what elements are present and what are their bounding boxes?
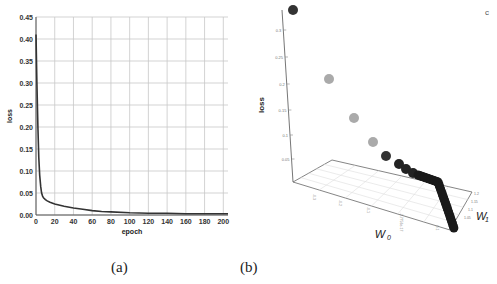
z-axis-label: loss bbox=[257, 96, 266, 113]
w0-axis-label: W bbox=[375, 228, 387, 240]
y-tick-label: 0.00 bbox=[19, 212, 33, 219]
scatter-point bbox=[349, 113, 359, 123]
w1-axis-sub: 1 bbox=[485, 216, 489, 223]
x-tick-label: 80 bbox=[107, 218, 115, 225]
y-tick-label: 0.10 bbox=[19, 168, 33, 175]
corner-mark: c bbox=[485, 8, 489, 17]
z-tick-label: 0.15 bbox=[279, 108, 288, 113]
scatter-point bbox=[288, 5, 298, 15]
loss-curve-chart: 0.000.050.100.150.200.250.300.350.400.45… bbox=[0, 0, 240, 240]
plane-grid-line bbox=[398, 181, 426, 214]
loss-line bbox=[36, 35, 228, 214]
x-tick-label: 0 bbox=[34, 218, 38, 225]
scatter-point bbox=[368, 137, 378, 147]
x-axis-label: epoch bbox=[122, 228, 143, 236]
x-tick-label: 40 bbox=[70, 218, 78, 225]
plane-grid-line bbox=[345, 171, 378, 198]
z-tick-label: 0.1 bbox=[282, 133, 288, 138]
x-tick-label: 60 bbox=[88, 218, 96, 225]
y-tick-label: 0.05 bbox=[19, 190, 33, 197]
x-tick-label: 120 bbox=[143, 218, 155, 225]
y-tick-label: 0.20 bbox=[19, 124, 33, 131]
scatter-point bbox=[381, 151, 391, 161]
w0-tick-label: -0.1 bbox=[366, 207, 370, 213]
y-tick-label: 0.15 bbox=[19, 146, 33, 153]
x-tick-label: 180 bbox=[199, 218, 211, 225]
y-tick-label: 0.45 bbox=[19, 14, 33, 21]
w0-axis-sub: 0 bbox=[387, 234, 391, 240]
w0-tick-label: 0.1 bbox=[435, 226, 439, 231]
w0-tick-label: -0.2 bbox=[338, 200, 342, 206]
y-axis-label: loss bbox=[6, 109, 13, 123]
x-tick-label: 160 bbox=[180, 218, 192, 225]
y-tick-label: 0.40 bbox=[19, 36, 33, 43]
x-tick-label: 140 bbox=[161, 218, 173, 225]
scatter-point-trail bbox=[449, 224, 458, 233]
loss-3d-svg: 0.30.250.20.150.10.05loss-0.3-0.2-0.1-2.… bbox=[250, 0, 497, 240]
w1-tick-label: 1.1 bbox=[468, 208, 473, 212]
y-tick-label: 0.30 bbox=[19, 80, 33, 87]
caption-b: (b) bbox=[240, 259, 258, 276]
w0-tick-label: -0.3 bbox=[312, 194, 316, 200]
loss-curve-svg: 0.000.050.100.150.200.250.300.350.400.45… bbox=[0, 0, 240, 240]
y-tick-label: 0.35 bbox=[19, 58, 33, 65]
z-tick-label: 0.25 bbox=[275, 55, 284, 60]
plane-grid-line bbox=[372, 176, 403, 206]
w0-tick-label: -2.7756e-17 bbox=[399, 213, 403, 232]
z-tick-label: 0.2 bbox=[279, 82, 285, 87]
x-tick-label: 200 bbox=[217, 218, 229, 225]
y-tick-label: 0.25 bbox=[19, 102, 33, 109]
x-tick-label: 20 bbox=[51, 218, 59, 225]
w1-tick-label: 1.05 bbox=[464, 216, 471, 220]
w1-tick-label: 1.2 bbox=[474, 192, 479, 196]
scatter-point bbox=[324, 74, 334, 84]
w1-tick-label: 1.15 bbox=[471, 200, 478, 204]
caption-a: (a) bbox=[111, 259, 128, 276]
z-tick-label: 0.05 bbox=[282, 157, 291, 162]
loss-3d-scatter: 0.30.250.20.150.10.05loss-0.3-0.2-0.1-2.… bbox=[250, 0, 497, 240]
x-tick-label: 100 bbox=[124, 218, 136, 225]
z-tick-label: 0.3 bbox=[276, 28, 282, 33]
